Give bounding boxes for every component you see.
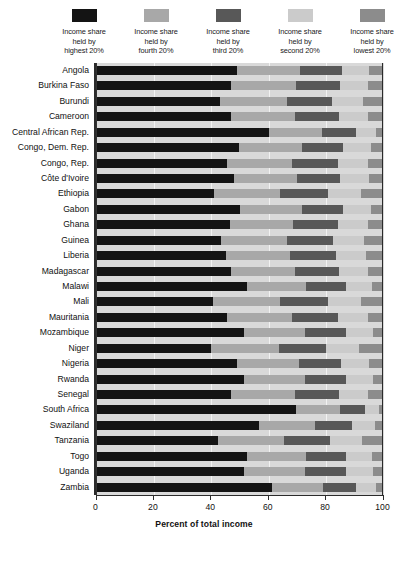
bar-segment-4 <box>342 66 369 75</box>
bar-segment-4 <box>336 251 366 260</box>
bar-segment-3 <box>306 452 346 461</box>
bar-segment-2 <box>272 483 324 492</box>
bar-congo-rep[interactable] <box>97 159 384 168</box>
bar-guinea[interactable] <box>97 236 384 245</box>
bar-segment-3 <box>287 236 333 245</box>
bar-segment-1 <box>97 205 241 214</box>
bar-segment-4 <box>339 390 368 399</box>
bar-tanzania[interactable] <box>97 436 384 445</box>
bar-segment-3 <box>322 128 356 137</box>
legend-swatch-third-20 <box>216 9 241 22</box>
bar-segment-3 <box>302 143 344 152</box>
bar-zambia[interactable] <box>97 483 384 492</box>
legend-label-second-20: Income share held by second 20% <box>278 27 322 56</box>
bar-segment-2 <box>240 205 302 214</box>
bar-segment-2 <box>231 390 294 399</box>
bar-rwanda[interactable] <box>97 375 384 384</box>
bar-segment-1 <box>97 159 228 168</box>
bar-segment-2 <box>239 143 302 152</box>
bar-segment-2 <box>237 66 300 75</box>
bar-segment-2 <box>218 436 284 445</box>
bar-segment-3 <box>305 467 347 476</box>
bar-segment-1 <box>97 112 232 121</box>
bar-cameroon[interactable] <box>97 112 384 121</box>
category-label-1: Angola <box>62 66 89 75</box>
bar-segment-1 <box>97 436 219 445</box>
bar-segment-2 <box>221 236 287 245</box>
bar-swaziland[interactable] <box>97 421 384 430</box>
category-label-10: Gabon <box>63 205 89 214</box>
bar-segment-1 <box>97 220 230 229</box>
category-label-12: Guinea <box>61 236 89 245</box>
bar-nigeria[interactable] <box>97 359 384 368</box>
bar-segment-2 <box>231 81 296 90</box>
bar-segment-4 <box>341 359 369 368</box>
bar-segment-2 <box>230 220 293 229</box>
bar-niger[interactable] <box>97 344 384 353</box>
bar-central-african-rep[interactable] <box>97 128 384 137</box>
category-label-9: Ethiopia <box>58 189 89 198</box>
bar-segment-2 <box>227 313 292 322</box>
bar-segment-1 <box>97 390 232 399</box>
bar-segment-3 <box>323 483 356 492</box>
bar-segment-2 <box>213 297 280 306</box>
bar-segment-4 <box>352 421 375 430</box>
bar-segment-4 <box>343 143 370 152</box>
bar-senegal[interactable] <box>97 390 384 399</box>
category-label-21: Rwanda <box>57 375 89 384</box>
tick-mark-60 <box>268 495 269 500</box>
bar-burundi[interactable] <box>97 97 384 106</box>
tick-mark-100 <box>383 495 384 500</box>
category-label-8: Côte d'Ivoire <box>41 174 89 183</box>
bar-ghana[interactable] <box>97 220 384 229</box>
bar-uganda[interactable] <box>97 467 384 476</box>
bar-segment-2 <box>211 344 278 353</box>
tick-mark-80 <box>325 495 326 500</box>
bar-segment-1 <box>97 375 245 384</box>
bar-segment-1 <box>97 189 215 198</box>
category-label-4: Cameroon <box>49 112 89 121</box>
bar-segment-3 <box>305 375 347 384</box>
bar-segment-2 <box>244 467 304 476</box>
bar-mozambique[interactable] <box>97 328 384 337</box>
bar-togo[interactable] <box>97 452 384 461</box>
bar-segment-2 <box>231 267 294 276</box>
bar-ethiopia[interactable] <box>97 189 384 198</box>
bar-segment-3 <box>295 112 339 121</box>
bar-burkina-faso[interactable] <box>97 81 384 90</box>
category-label-14: Madagascar <box>42 267 89 276</box>
bar-segment-1 <box>97 236 222 245</box>
bar-segment-3 <box>300 66 342 75</box>
legend-label-fourth-20: Income share held by fourth 20% <box>134 27 178 56</box>
bar-segment-1 <box>97 483 272 492</box>
bar-mauritania[interactable] <box>97 313 384 322</box>
bar-segment-1 <box>97 452 248 461</box>
bar-madagascar[interactable] <box>97 267 384 276</box>
category-label-23: South Africa <box>43 405 89 414</box>
bar-south-africa[interactable] <box>97 405 384 414</box>
category-label-24: Swaziland <box>50 421 89 430</box>
chart-legend: Income share held by highest 20% Income … <box>48 0 408 56</box>
bar-segment-1 <box>97 328 245 337</box>
bar-segment-1 <box>97 344 212 353</box>
bar-segment-2 <box>247 282 306 291</box>
tick-mark-0 <box>96 495 97 500</box>
bar-mali[interactable] <box>97 297 384 306</box>
category-label-26: Togo <box>70 452 89 461</box>
bar-c-te-d-ivoire[interactable] <box>97 174 384 183</box>
bar-gabon[interactable] <box>97 205 384 214</box>
legend-swatch-fourth-20 <box>144 9 169 22</box>
bar-congo-dem-rep[interactable] <box>97 143 384 152</box>
bar-segment-1 <box>97 174 235 183</box>
bar-segment-5 <box>359 344 383 353</box>
category-label-16: Mali <box>73 297 89 306</box>
tick-label-40: 40 <box>206 502 216 512</box>
bar-segment-3 <box>279 344 326 353</box>
bar-liberia[interactable] <box>97 251 384 260</box>
bar-malawi[interactable] <box>97 282 384 291</box>
bar-angola[interactable] <box>97 66 384 75</box>
legend-item-highest-20: Income share held by highest 20% <box>48 9 120 56</box>
bar-segment-5 <box>363 97 384 106</box>
bar-segment-4 <box>356 128 376 137</box>
bar-segment-2 <box>237 359 299 368</box>
